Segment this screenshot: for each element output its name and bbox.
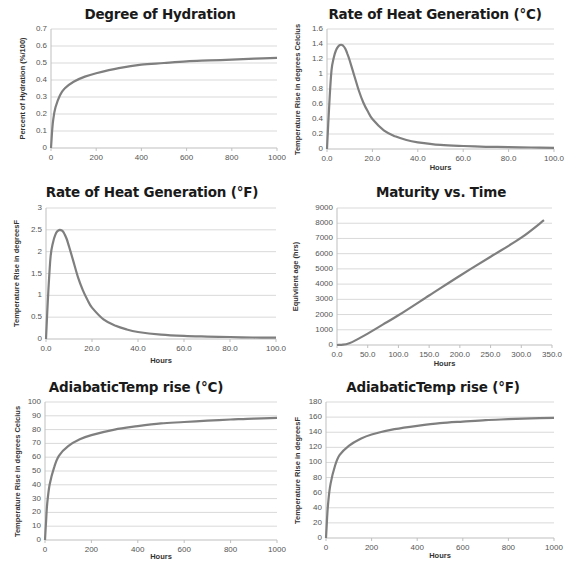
- x-axis-label: Hours: [429, 551, 451, 560]
- x-tick-label: 400: [411, 543, 424, 552]
- y-tick-label: 180: [288, 398, 322, 406]
- y-axis-label: Temperature Rise in degreesF: [292, 417, 301, 524]
- x-tick-label: 1000: [545, 543, 563, 552]
- x-tick-label: 0: [324, 543, 328, 552]
- x-tick-label: 600: [456, 543, 469, 552]
- x-tick-label: 200: [365, 543, 378, 552]
- x-tick-label: 800: [502, 543, 515, 552]
- y-tick-label: 0: [288, 534, 322, 542]
